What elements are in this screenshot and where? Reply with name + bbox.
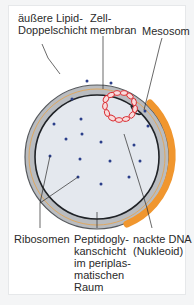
label-peptidoglycan: Peptidogly- kanschicht im periplas- mati… — [74, 233, 131, 293]
label-cell-membrane: Zell- membran — [90, 12, 136, 36]
label-dna: nackte DNA (Nukleoid) — [133, 233, 192, 257]
label-outer-lipid-bilayer: äußere Lipid- Doppelschicht — [18, 12, 87, 36]
label-ribosomes: Ribosomen — [14, 233, 70, 245]
label-mesosome: Mesosom — [142, 25, 190, 37]
